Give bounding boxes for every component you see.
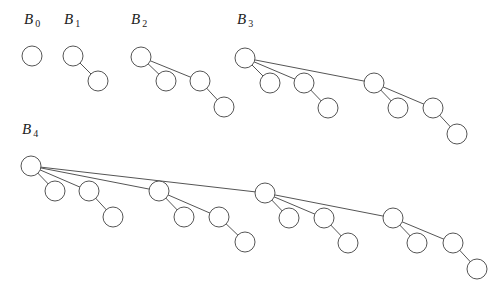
label-b4: B4: [22, 121, 38, 139]
root-node-b2: [131, 47, 151, 67]
tree-node-b4: [383, 208, 403, 228]
tree-node-b2: [156, 71, 176, 91]
tree-node-b3: [318, 98, 338, 118]
tree-node-b3: [388, 98, 408, 118]
labels-layer: B0 B1 B2 B3 B4: [22, 11, 253, 139]
tree-node-b4: [338, 233, 358, 253]
tree-node-b4: [407, 233, 427, 253]
tree-node-b2: [190, 71, 210, 91]
tree-node-b4: [79, 181, 99, 201]
label-b1: B1: [64, 11, 80, 29]
root-node-b3: [235, 48, 255, 68]
tree-node-b4: [314, 208, 334, 228]
label-b0: B0: [24, 11, 40, 29]
tree-node-b3: [364, 73, 384, 93]
tree-node-b4: [149, 181, 169, 201]
tree-node-b4: [45, 181, 65, 201]
root-node-b0: [22, 46, 42, 66]
tree-node-b4: [235, 232, 255, 252]
binomial-trees-diagram: B0 B1 B2 B3 B4: [0, 0, 504, 287]
tree-node-b3: [423, 98, 443, 118]
tree-node-b4: [467, 259, 487, 279]
tree-node-b4: [255, 183, 275, 203]
label-b3: B3: [237, 11, 253, 29]
tree-node-b3: [260, 73, 280, 93]
root-node-b1: [63, 46, 83, 66]
tree-node-b4: [174, 207, 194, 227]
tree-node-b4: [443, 233, 463, 253]
tree-node-b4: [279, 208, 299, 228]
tree-node-b4: [103, 207, 123, 227]
tree-node-b3: [294, 73, 314, 93]
label-b2: B2: [131, 11, 147, 29]
tree-node-b2: [214, 97, 234, 117]
tree-node-b4: [209, 207, 229, 227]
nodes-layer: [21, 46, 487, 279]
root-node-b4: [21, 156, 41, 176]
tree-node-b3: [447, 124, 467, 144]
tree-node-b1: [88, 71, 108, 91]
